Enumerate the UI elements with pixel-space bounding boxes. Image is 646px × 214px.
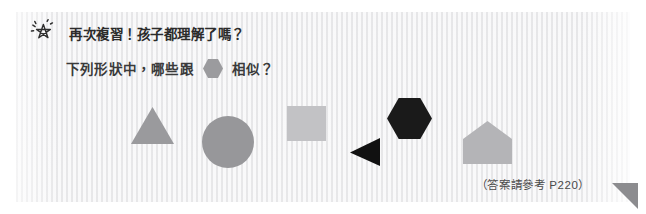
- corner-triangle-icon: [612, 183, 638, 209]
- shape-triangle-black: [350, 138, 380, 166]
- header-title: 再次複習！孩子都理解了嗎？: [69, 23, 245, 43]
- question-line: 下列形狀中，哪些跟 相似？: [66, 58, 274, 78]
- shape-square-gray: [287, 106, 326, 141]
- question-text-after: 相似？: [232, 58, 275, 78]
- answer-reference-note: （答案請參考 P220）: [476, 176, 590, 192]
- question-text-before: 下列形狀中，哪些跟: [66, 58, 194, 78]
- shape-house-gray: [463, 121, 512, 164]
- shape-hexagon-black: [387, 98, 432, 139]
- header: 再次複習！孩子都理解了嗎？: [28, 18, 245, 48]
- hexagon-icon: [203, 59, 223, 78]
- shape-circle-gray: [202, 116, 254, 168]
- page-root: 再次複習！孩子都理解了嗎？ 下列形狀中，哪些跟 相似？ （答案請參考 P220）: [0, 0, 646, 214]
- shape-triangle-gray: [131, 107, 174, 144]
- star-sparkle-icon: [28, 18, 58, 48]
